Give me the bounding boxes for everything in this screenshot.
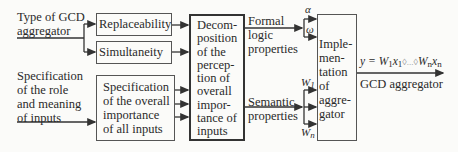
implementation-box: Imple- men- tation of aggre- gator — [317, 14, 357, 141]
simultaneity-box: Simultaneity — [96, 41, 172, 64]
replaceability-box: Replaceability — [96, 13, 172, 36]
semantic-properties-label: Semantic properties — [248, 95, 298, 123]
implementation-text: Imple- men- tation of aggre- gator — [319, 37, 352, 121]
wn-label: Wn — [301, 126, 315, 143]
output-formula: y = W1x1◊...◊Wnxn — [360, 55, 442, 72]
type-of-gcd-label: Type of GCD aggregator — [17, 11, 85, 38]
overall-importance-box: Specification of the overall importance … — [96, 75, 175, 141]
gcd-aggregator-output-label: GCD aggregator — [360, 78, 443, 92]
w1-label: W1 — [301, 76, 315, 93]
formal-logic-properties-label: Formal logic properties — [248, 14, 298, 56]
decomposition-text: Decom- position of the percep- tion of o… — [197, 19, 237, 139]
decomposition-box: Decom- position of the percep- tion of o… — [189, 14, 245, 141]
spec-role-label: Specification of the role and meaning of… — [17, 69, 83, 125]
alpha-label: α — [305, 3, 311, 17]
overall-importance-text: Specification of the overall importance … — [103, 80, 170, 136]
omega-label: ω — [306, 23, 314, 37]
